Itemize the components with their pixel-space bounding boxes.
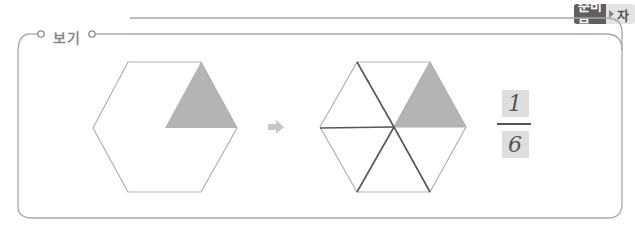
numerator-box: 1 xyxy=(502,90,529,117)
right-arrow-icon xyxy=(268,120,284,134)
denominator-box: 6 xyxy=(502,131,529,158)
fraction: 1 6 xyxy=(500,90,530,158)
pencil-line xyxy=(394,127,430,192)
figures xyxy=(0,0,635,232)
fraction-bar xyxy=(497,123,531,125)
hexagon-after xyxy=(320,62,466,192)
pencil-line xyxy=(357,62,394,127)
pencil-line xyxy=(357,127,394,192)
hexagon-before xyxy=(93,62,237,192)
pencil-line xyxy=(320,127,394,128)
